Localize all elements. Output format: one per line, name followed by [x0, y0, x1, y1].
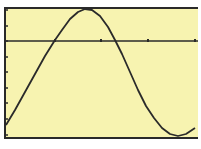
function-curve [6, 9, 195, 136]
graph-plot [0, 0, 201, 149]
y-axis-ticks [5, 10, 8, 135]
